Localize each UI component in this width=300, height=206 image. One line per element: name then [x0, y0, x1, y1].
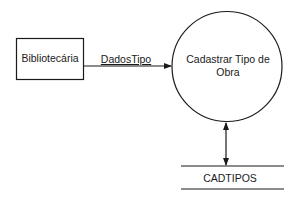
store-label: CADTIPOS: [203, 172, 257, 184]
dfd-canvas: Bibliotecária DadosTipo Cadastrar Tipo d…: [0, 0, 300, 206]
data-store-cadtipos: CADTIPOS: [181, 166, 284, 189]
data-flow-dadostipo: DadosTipo: [84, 53, 171, 66]
process-cadastrar-tipo-de-obra: Cadastrar Tipo de Obra: [172, 12, 282, 122]
process-label-line2: Obra: [216, 66, 240, 78]
external-entity-bibliotecaria: Bibliotecária: [17, 39, 84, 80]
process-label-line1: Cadastrar Tipo de: [186, 53, 270, 65]
entity-label: Bibliotecária: [21, 52, 78, 64]
flow-label: DadosTipo: [101, 53, 152, 65]
